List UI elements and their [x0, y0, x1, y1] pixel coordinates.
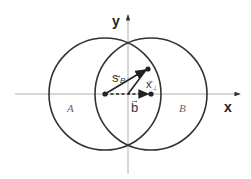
- label-x-perp: → x ⊥: [146, 76, 157, 91]
- label-s-b: → s B: [112, 70, 126, 85]
- y-axis-label: y: [112, 13, 120, 29]
- overlapping-circles-diagram: y x A B → s B → x ⊥ → b: [0, 0, 251, 179]
- point-origin-a: [102, 91, 107, 96]
- svg-text:B: B: [120, 76, 126, 85]
- point-b-end: [148, 91, 153, 96]
- svg-text:b: b: [131, 100, 138, 115]
- vector-x-perp: [128, 70, 146, 94]
- x-axis-label: x: [224, 99, 232, 115]
- region-a-label: A: [66, 102, 74, 114]
- svg-text:⊥: ⊥: [152, 85, 157, 91]
- point-s-end: [145, 66, 150, 71]
- label-b: → b: [130, 95, 139, 115]
- region-b-label: B: [179, 102, 186, 114]
- svg-text:s: s: [112, 70, 119, 85]
